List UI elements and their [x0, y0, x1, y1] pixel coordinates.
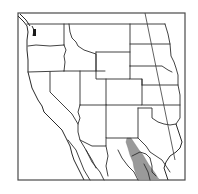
range-map [0, 0, 198, 194]
map-frame [18, 13, 185, 180]
puget-sound-water [33, 29, 36, 36]
